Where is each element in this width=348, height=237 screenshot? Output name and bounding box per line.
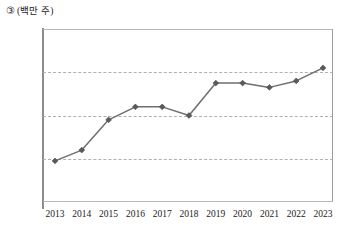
data-point-marker: [320, 65, 326, 71]
data-point-marker: [133, 104, 139, 110]
series-plot: [43, 29, 333, 202]
data-point-marker: [52, 158, 58, 164]
data-point-marker: [293, 78, 299, 84]
figure-number-marker: ③: [6, 5, 15, 16]
x-tick-label: 2023: [303, 208, 343, 220]
chart-header: ③(백만 주): [6, 4, 53, 18]
plot-area: 10203040: [43, 29, 333, 202]
data-point-marker: [267, 84, 273, 90]
x-axis-ticks: 2013201420152016201720182019202020212022…: [43, 208, 333, 226]
data-point-marker: [159, 104, 165, 110]
chart-figure: ③(백만 주) 10203040 20132014201520162017201…: [0, 0, 348, 237]
y-axis-unit-label: (백만 주): [17, 6, 53, 16]
data-point-marker: [240, 80, 246, 86]
